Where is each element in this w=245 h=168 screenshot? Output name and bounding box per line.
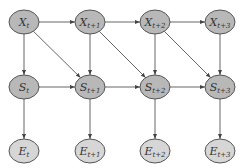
node-s-tplus1: St+1 [75,75,105,99]
node-e-tplus3: Et+3 [205,139,235,163]
node-e-tplus1: Et+1 [75,139,105,163]
edges-layer [24,22,220,139]
node-x-tplus3: Xt+3 [205,10,235,34]
edge-x1-to-s2 [99,31,145,77]
node-s-tplus2: St+2 [140,75,170,99]
node-s-t: St [9,75,39,99]
node-x-tplus2: Xt+2 [140,10,170,34]
node-e-t: Et [9,139,39,163]
bayesian-network-diagram: XtXt+1Xt+2Xt+3StSt+1St+2St+3EtEt+1Et+2Et… [0,0,245,168]
node-x-tplus1: Xt+1 [75,10,105,34]
node-e-tplus2: Et+2 [140,139,170,163]
node-x-t: Xt [9,10,39,34]
edge-x0-to-s1 [33,31,80,77]
node-s-tplus3: St+3 [205,75,235,99]
edge-x2-to-s3 [164,31,210,77]
